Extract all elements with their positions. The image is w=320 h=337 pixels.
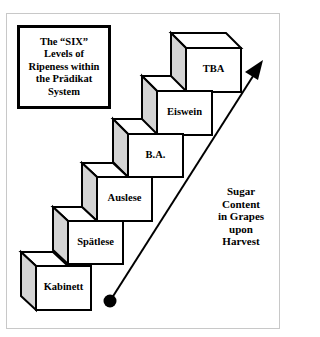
level-label-kabinett: Kabinett [36,281,91,292]
level-label-auslese: Auslese [97,192,152,203]
arrow-label: Sugar Content in Grapes upon Harvest [196,185,286,248]
level-label-eiswein: Eiswein [157,106,212,117]
level-label-ba: B.A. [128,149,183,160]
level-label-tba: TBA [186,63,241,74]
arrow-origin-dot [104,295,117,308]
level-label-spatlese: Spätlese [68,236,123,247]
